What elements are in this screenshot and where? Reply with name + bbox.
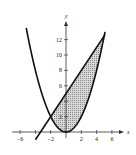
- y-tick-label: 12: [56, 37, 62, 43]
- x-axis-label: x: [126, 129, 130, 135]
- chart: −6−22462681012xy: [0, 0, 136, 155]
- x-tick-label: 2: [80, 136, 83, 142]
- y-axis-label: y: [64, 13, 68, 19]
- x-tick-label: −2: [48, 136, 54, 142]
- y-tick-label: 8: [59, 67, 62, 73]
- x-tick-label: −6: [17, 136, 23, 142]
- x-tick-label: 4: [95, 136, 98, 142]
- y-axis-arrow-icon: [64, 21, 68, 26]
- x-tick-label: 6: [110, 136, 113, 142]
- x-axis-arrow-icon: [119, 130, 124, 134]
- y-tick-label: 2: [59, 114, 62, 120]
- y-tick-label: 10: [56, 52, 62, 58]
- y-tick-label: 6: [59, 83, 62, 89]
